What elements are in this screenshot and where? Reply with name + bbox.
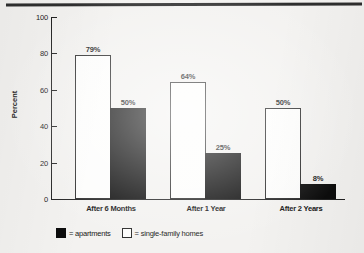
bar-value-apartments-after-6-months: 50% bbox=[121, 98, 135, 107]
bar-value-homes-after-2-years: 50% bbox=[276, 98, 290, 107]
chart-legend: = apartments = single-family homes bbox=[56, 228, 203, 238]
y-tick-60 bbox=[52, 90, 57, 91]
y-tick-label-80: 80 bbox=[22, 49, 48, 58]
x-category-label-after-6-months: After 6 Months bbox=[65, 204, 157, 213]
y-tick-label-40: 40 bbox=[22, 122, 48, 131]
y-tick-label-60: 60 bbox=[22, 86, 48, 95]
y-axis-line bbox=[51, 17, 52, 200]
bar-value-homes-after-6-months: 79% bbox=[86, 45, 100, 54]
legend-item-single-family-homes: = single-family homes bbox=[122, 228, 204, 238]
bar-value-apartments-after-1-year: 25% bbox=[216, 143, 230, 152]
bar-apartments-after-6-months: 50% bbox=[110, 108, 146, 199]
legend-label-apartments: = apartments bbox=[69, 229, 111, 238]
legend-label-single-family-homes: = single-family homes bbox=[135, 229, 204, 238]
white-square-icon bbox=[122, 228, 132, 238]
bar-value-homes-after-1-year: 64% bbox=[181, 72, 195, 81]
bar-value-apartments-after-2-years: 8% bbox=[313, 174, 323, 183]
y-tick-label-20: 20 bbox=[22, 159, 48, 168]
x-axis-line bbox=[51, 199, 345, 200]
y-tick-label-0: 0 bbox=[22, 195, 48, 204]
black-square-icon bbox=[56, 228, 66, 238]
y-tick-20 bbox=[52, 163, 57, 164]
y-tick-label-100: 100 bbox=[22, 13, 48, 22]
legend-item-apartments: = apartments bbox=[56, 228, 111, 238]
bar-apartments-after-1-year: 25% bbox=[205, 153, 241, 199]
bar-homes-after-6-months: 79% bbox=[75, 55, 111, 199]
y-tick-80 bbox=[52, 53, 57, 54]
bar-homes-after-2-years: 50% bbox=[265, 108, 301, 199]
figure-page: Percent 100 80 60 40 20 0 79% 50% 64% 25… bbox=[0, 0, 364, 253]
y-tick-100 bbox=[52, 17, 57, 18]
y-tick-40 bbox=[52, 126, 57, 127]
bar-homes-after-1-year: 64% bbox=[170, 82, 206, 199]
bar-apartments-after-2-years: 8% bbox=[300, 184, 336, 199]
y-axis-title: Percent bbox=[10, 75, 19, 135]
bar-chart: Percent 100 80 60 40 20 0 79% 50% 64% 25… bbox=[0, 0, 364, 253]
x-category-label-after-1-year: After 1 Year bbox=[160, 204, 252, 213]
x-category-label-after-2-years: After 2 Years bbox=[255, 204, 347, 213]
